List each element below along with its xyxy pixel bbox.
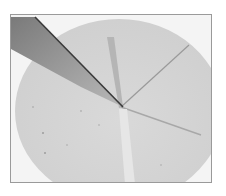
photo-frame	[10, 14, 212, 183]
photo-scene	[11, 15, 212, 183]
